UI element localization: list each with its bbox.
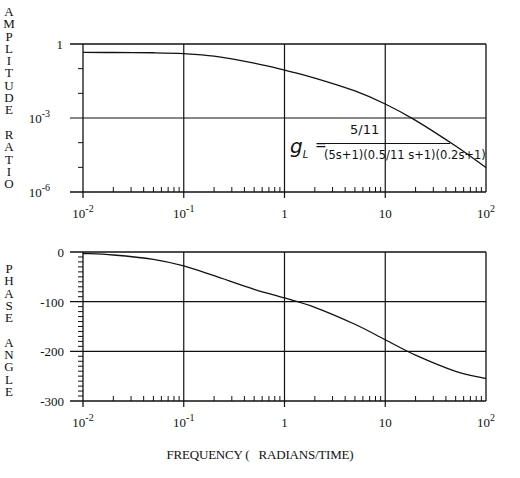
x-tick-label: 10 (379, 415, 392, 430)
x-tick-label: 10-2 (72, 412, 93, 430)
y-tick-label: -100 (40, 295, 64, 310)
x-tick-label: 102 (477, 412, 495, 430)
x-tick-label: 10-2 (72, 203, 93, 221)
x-tick-label: 1 (281, 415, 288, 430)
y-tick-label: -200 (40, 344, 64, 359)
y-tick-label: -300 (40, 394, 64, 409)
y-tick-label: 10-6 (29, 182, 50, 200)
y-tick-label: 10-3 (29, 108, 50, 126)
x-tick-label: 10 (379, 206, 392, 221)
transfer-function-annotation: gL = 5/11 (5s+1)(0.5/11 s+1)(0.2s+1) (290, 124, 470, 176)
phase-plot: 0-100-200-30010-210-1110102 (40, 245, 495, 430)
formula-numerator: 5/11 (350, 122, 379, 137)
x-tick-label: 10-1 (173, 203, 194, 221)
y-tick-label: 1 (57, 37, 64, 52)
x-tick-label: 10-1 (173, 412, 194, 430)
bode-plots: 110-310-610-210-1110102 0-100-200-30010-… (0, 0, 520, 478)
x-tick-label: 102 (477, 203, 495, 221)
formula-denominator: (5s+1)(0.5/11 s+1)(0.2s+1) (324, 148, 486, 162)
x-axis-title: FREQUENCY ( RADIANS/TIME) (0, 447, 520, 463)
formula-lhs: gL (290, 134, 308, 160)
y-tick-label: 0 (58, 245, 65, 260)
x-tick-label: 1 (281, 206, 288, 221)
